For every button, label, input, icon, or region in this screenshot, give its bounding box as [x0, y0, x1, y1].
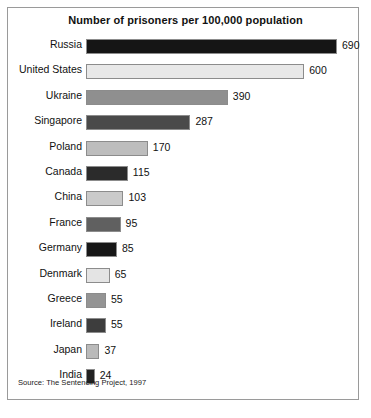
value-label: 103 — [128, 191, 146, 203]
value-label: 85 — [122, 242, 134, 254]
bar-greece — [86, 293, 106, 308]
figure-container: Number of prisoners per 100,000 populati… — [0, 0, 371, 418]
bar-row: Singapore287 — [0, 114, 371, 139]
value-label: 390 — [233, 90, 251, 102]
bar-ireland — [86, 318, 106, 333]
bar-row: Canada115 — [0, 165, 371, 190]
bar-row: Japan37 — [0, 343, 371, 368]
value-label: 170 — [153, 141, 171, 153]
bar-row: Germany85 — [0, 241, 371, 266]
value-label: 37 — [104, 344, 116, 356]
bar-row: Ireland55 — [0, 317, 371, 342]
bar-row: Poland170 — [0, 140, 371, 165]
value-label: 95 — [126, 217, 138, 229]
category-label: Japan — [0, 343, 82, 355]
category-label: Ireland — [0, 317, 82, 329]
chart-title: Number of prisoners per 100,000 populati… — [0, 14, 371, 26]
bar-row: China103 — [0, 190, 371, 215]
value-label: 115 — [133, 166, 150, 178]
bar-china — [86, 191, 123, 206]
value-label: 600 — [309, 64, 327, 76]
category-label: United States — [0, 63, 82, 75]
value-label: 55 — [111, 318, 123, 330]
value-label: 287 — [195, 115, 213, 127]
category-label: Greece — [0, 292, 82, 304]
bar-russia — [86, 39, 337, 54]
category-label: Ukraine — [0, 89, 82, 101]
bar-france — [86, 217, 121, 232]
source-note: Source: The Sentencing Project, 1997 — [18, 378, 146, 387]
bar-germany — [86, 242, 117, 257]
value-label: 55 — [111, 293, 123, 305]
category-label: Germany — [0, 241, 82, 253]
category-label: China — [0, 190, 82, 202]
bar-chart-plot-area: Russia690United States600Ukraine390Singa… — [0, 38, 371, 393]
bar-row: Greece55 — [0, 292, 371, 317]
bar-row: Denmark65 — [0, 267, 371, 292]
bar-row: France95 — [0, 216, 371, 241]
bar-poland — [86, 141, 148, 156]
bar-ukraine — [86, 90, 228, 105]
bar-denmark — [86, 268, 110, 283]
category-label: Denmark — [0, 267, 82, 279]
value-label: 690 — [342, 39, 360, 51]
category-label: Poland — [0, 140, 82, 152]
category-label: Canada — [0, 165, 82, 177]
category-label: Singapore — [0, 114, 82, 126]
bar-japan — [86, 344, 99, 359]
bar-row: Russia690 — [0, 38, 371, 63]
value-label: 65 — [115, 268, 127, 280]
category-label: Russia — [0, 38, 82, 50]
bar-singapore — [86, 115, 190, 130]
bar-row: United States600 — [0, 63, 371, 88]
bar-united-states — [86, 64, 304, 79]
bar-row: Ukraine390 — [0, 89, 371, 114]
bar-canada — [86, 166, 128, 181]
category-label: France — [0, 216, 82, 228]
